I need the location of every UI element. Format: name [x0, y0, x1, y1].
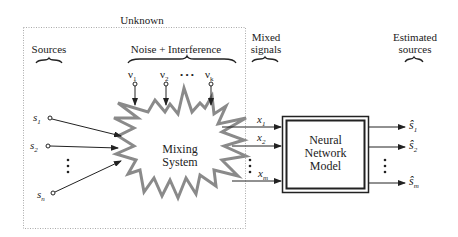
- output-vertical-dots: [384, 159, 387, 174]
- source-arrows: [46, 116, 121, 195]
- estimated-brace: [405, 57, 423, 62]
- estimate-label-s2: ŝ2: [409, 139, 417, 156]
- mixed-label-x1: x1: [257, 113, 265, 130]
- sources-brace: [36, 58, 62, 63]
- mixing-system-label: Mixing System: [148, 143, 212, 169]
- mixed-vertical-dots: [249, 159, 252, 174]
- mixed-brace: [252, 57, 278, 62]
- neural-network-label: Neural Network Model: [291, 122, 360, 184]
- mixed-label-line2: signals: [248, 43, 284, 55]
- estimated-label-line2: sources: [388, 43, 442, 55]
- noise-label-vk: νk: [205, 68, 213, 85]
- estimate-label-s1: ŝ1: [409, 119, 417, 136]
- mixed-label-x2: x2: [257, 131, 265, 148]
- noise-label-v1: ν1: [128, 68, 136, 85]
- noise-ellipsis: • • •: [180, 69, 194, 81]
- estimated-label-line1: Estimated: [388, 31, 442, 43]
- source-label-s1: s1: [33, 111, 41, 128]
- nn-line1: Neural: [305, 134, 347, 147]
- sources-label: Sources: [28, 43, 70, 55]
- mixed-label-xm: xm: [258, 167, 268, 184]
- mixed-label-line1: Mixed: [248, 31, 284, 43]
- nn-line3: Model: [305, 160, 347, 173]
- noise-label-v2: ν2: [160, 68, 168, 85]
- source-label-sn: sn: [37, 188, 45, 205]
- noise-brace: [128, 56, 236, 63]
- noise-label: Noise + Interference: [126, 43, 226, 55]
- nn-line2: Network: [305, 147, 347, 160]
- noise-arrows: [133, 82, 213, 105]
- estimate-label-sm: ŝm: [409, 175, 419, 192]
- output-arrows: [369, 127, 405, 183]
- source-label-s2: s2: [30, 139, 38, 156]
- mixing-line2: System: [148, 156, 212, 169]
- unknown-label: Unknown: [112, 14, 172, 26]
- source-vertical-dots: [67, 159, 70, 174]
